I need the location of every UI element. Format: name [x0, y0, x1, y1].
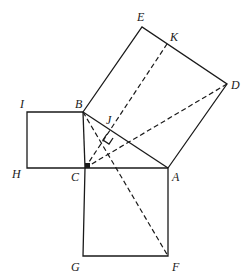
square-abed: [83, 27, 227, 168]
segment-ab: [83, 112, 168, 168]
dashed-bf: [83, 112, 168, 256]
dashed-ck: [85, 44, 167, 168]
pythagorean-diagram: E K D I B J H C A G F: [0, 0, 251, 279]
label-g: G: [71, 260, 80, 274]
label-a: A: [171, 170, 180, 184]
label-f: F: [171, 260, 180, 274]
label-c: C: [71, 170, 80, 184]
label-d: D: [230, 78, 240, 92]
square-acgf: [83, 168, 168, 256]
label-h: H: [11, 167, 22, 181]
label-i: I: [19, 97, 25, 111]
label-e: E: [136, 10, 145, 24]
right-angle-marker-c: [85, 163, 90, 168]
segment-bc: [83, 112, 85, 168]
label-j: J: [106, 113, 112, 127]
label-b: B: [75, 97, 83, 111]
label-k: K: [169, 30, 179, 44]
square-bchi: [27, 112, 85, 168]
